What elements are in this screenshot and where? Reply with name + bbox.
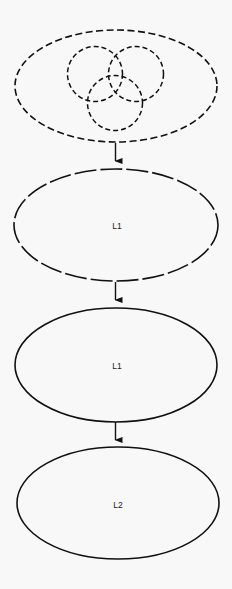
l1-dashed-node: L1	[14, 169, 218, 281]
node-label-l1-dashed: L1	[112, 221, 122, 231]
node-label-l1-solid: L1	[112, 361, 122, 371]
l2-solid-node: L2	[17, 447, 219, 559]
set-union-node	[15, 30, 217, 142]
inner-circle-bottom	[88, 76, 143, 131]
node-label-l2: L2	[113, 500, 123, 510]
inner-circle-upper-left	[68, 47, 123, 102]
l1-solid-node: L1	[15, 308, 217, 422]
flow-diagram: L1 L1 L2	[0, 0, 232, 589]
inner-circle-upper-right	[109, 47, 164, 102]
outer-dashed-ellipse	[15, 30, 217, 142]
